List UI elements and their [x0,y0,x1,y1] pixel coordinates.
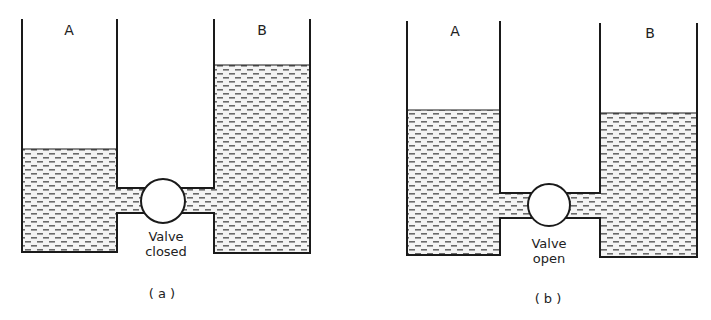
figure-caption: ( a ) [149,286,175,301]
valve-label-line2: closed [145,244,187,259]
tank-b-label: B [645,25,655,41]
valve-label-line1: Valve [531,236,566,251]
communicating-vessels-diagram: A B Valve closed ( a ) A B Valve open ( … [0,0,711,320]
valve-label-line1: Valve [148,229,183,244]
tank-a-liquid [22,149,117,252]
figure-a: A B Valve closed ( a ) [22,19,310,301]
valve-label-line2: open [533,251,565,266]
tank-a-label: A [450,23,460,39]
valve-open-icon [528,184,570,226]
tank-b-liquid [214,65,310,253]
tank-a-liquid [407,110,500,255]
tank-b-label: B [257,22,267,38]
tank-a-label: A [64,22,74,38]
valve-closed-icon [141,179,185,223]
figure-b: A B Valve open ( b ) [407,21,697,306]
figure-caption: ( b ) [535,291,562,306]
tank-b-liquid [600,113,697,257]
